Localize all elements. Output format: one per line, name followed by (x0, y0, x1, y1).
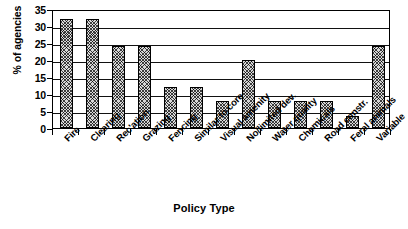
y-axis-title: % of agencies (10, 0, 24, 90)
y-axis-tick-label: 0 (24, 123, 46, 135)
y-axis-tick-label: 20 (24, 55, 46, 67)
x-axis-tick-mark (52, 129, 53, 135)
y-axis-tick-label: 35 (24, 4, 46, 16)
bar (86, 19, 99, 128)
bar (60, 19, 73, 128)
y-axis-tick-label: 5 (24, 106, 46, 118)
y-axis-tick-labels: 35302520151050 (24, 10, 46, 129)
y-axis-tick-label: 30 (24, 21, 46, 33)
bar-chart: % of agencies 35302520151050 FireClearin… (0, 0, 408, 229)
y-axis-tick-label: 15 (24, 72, 46, 84)
y-axis-tick-label: 10 (24, 89, 46, 101)
x-axis-category-labels: FireClearingRec'ationGrazingFencingSimil… (52, 136, 390, 198)
y-axis-tick-label: 25 (24, 38, 46, 50)
x-axis-title: Policy Type (0, 202, 408, 214)
